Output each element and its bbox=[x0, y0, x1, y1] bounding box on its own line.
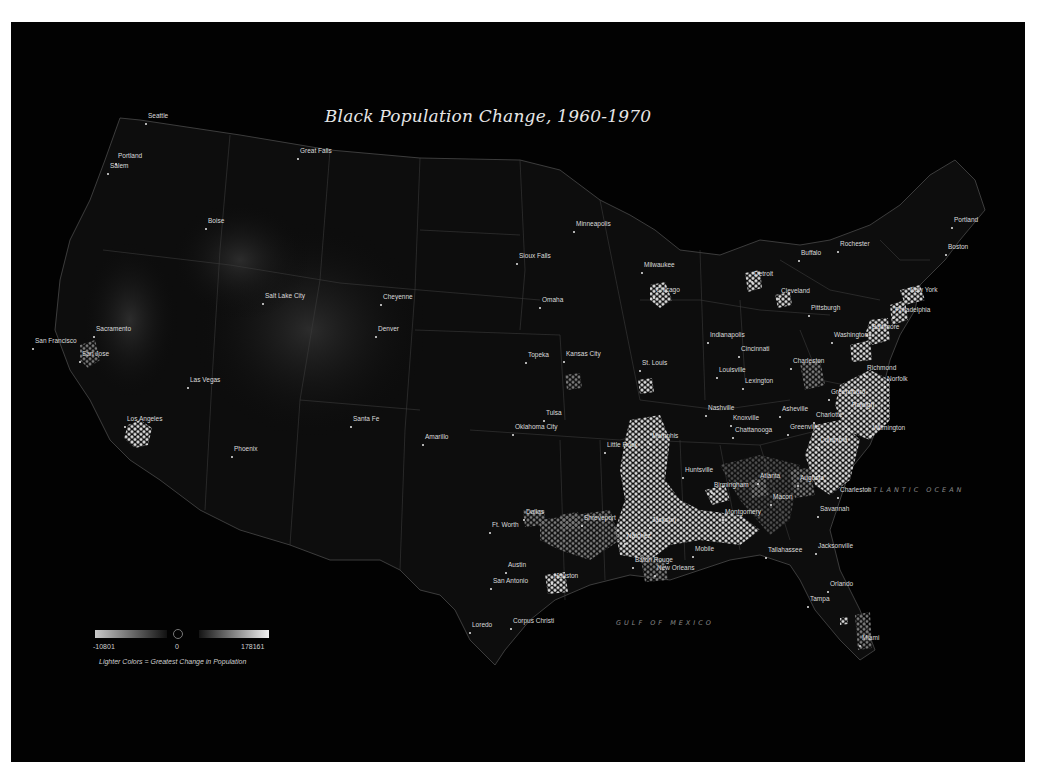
city-marker bbox=[32, 348, 34, 350]
city-label: Sioux Falls bbox=[519, 253, 551, 260]
city-label: Rochester bbox=[840, 241, 870, 248]
city-label: Seattle bbox=[148, 113, 168, 120]
city-label: Memphis bbox=[652, 433, 678, 440]
city-marker bbox=[779, 416, 781, 418]
city-label: Orlando bbox=[830, 581, 853, 588]
city-label: Philadelphia bbox=[895, 307, 930, 314]
city-marker bbox=[469, 632, 471, 634]
city-marker bbox=[654, 575, 656, 577]
city-marker bbox=[624, 543, 626, 545]
water-label: GULF OF MEXICO bbox=[616, 619, 714, 627]
city-marker bbox=[205, 228, 207, 230]
city-marker bbox=[543, 420, 545, 422]
city-marker bbox=[516, 263, 518, 265]
city-label: Louisville bbox=[719, 367, 746, 374]
city-label: Boise bbox=[208, 218, 224, 225]
city-marker bbox=[641, 272, 643, 274]
city-marker bbox=[231, 456, 233, 458]
city-label: Milwaukee bbox=[644, 262, 675, 269]
city-label: Asheville bbox=[782, 406, 808, 413]
city-label: Greenville bbox=[790, 424, 819, 431]
city-label: Natchez bbox=[627, 533, 651, 540]
city-marker bbox=[573, 231, 575, 233]
legend-min-label: -10801 bbox=[93, 643, 115, 650]
city-marker bbox=[859, 645, 861, 647]
city-label: Columbia bbox=[820, 437, 847, 444]
city-marker bbox=[849, 412, 851, 414]
city-marker bbox=[907, 297, 909, 299]
city-label: Knoxville bbox=[733, 415, 759, 422]
city-label: Indianapolis bbox=[710, 332, 745, 339]
city-label: Mobile bbox=[695, 546, 714, 553]
city-marker bbox=[187, 387, 189, 389]
legend-zero-label: 0 bbox=[175, 643, 179, 650]
city-marker bbox=[797, 485, 799, 487]
city-marker bbox=[604, 452, 606, 454]
city-marker bbox=[808, 315, 810, 317]
city-label: Tallahassee bbox=[768, 547, 802, 554]
city-marker bbox=[778, 298, 780, 300]
city-label: Miami bbox=[862, 635, 879, 642]
city-label: Santa Fe bbox=[353, 416, 379, 423]
city-label: Salem bbox=[110, 163, 128, 170]
city-marker bbox=[581, 525, 583, 527]
city-marker bbox=[884, 386, 886, 388]
city-label: Augusta bbox=[800, 475, 824, 482]
city-label: Cheyenne bbox=[383, 294, 413, 301]
city-marker bbox=[692, 556, 694, 558]
city-marker bbox=[145, 123, 147, 125]
city-label: St. Louis bbox=[642, 360, 667, 367]
city-marker bbox=[297, 158, 299, 160]
city-marker bbox=[107, 173, 109, 175]
city-label: Kansas City bbox=[566, 351, 601, 358]
legend-gradient-negative bbox=[95, 630, 167, 638]
city-label: Oklahoma City bbox=[515, 424, 558, 431]
city-label: Minneapolis bbox=[576, 221, 611, 228]
city-label: Nashville bbox=[708, 405, 734, 412]
city-marker bbox=[815, 553, 817, 555]
city-marker bbox=[262, 303, 264, 305]
city-marker bbox=[870, 435, 872, 437]
city-marker bbox=[505, 572, 507, 574]
legend-zero-marker bbox=[173, 629, 183, 639]
city-marker bbox=[817, 447, 819, 449]
city-label: Chattanooga bbox=[735, 427, 772, 434]
city-label: New Orleans bbox=[657, 565, 695, 572]
city-label: Atlanta bbox=[760, 473, 780, 480]
city-marker bbox=[751, 281, 753, 283]
city-label: Buffalo bbox=[801, 250, 821, 257]
city-label: Richmond bbox=[867, 365, 896, 372]
city-marker bbox=[892, 317, 894, 319]
city-label: Portland bbox=[118, 153, 142, 160]
city-label: Pittsburgh bbox=[811, 305, 840, 312]
city-marker bbox=[864, 375, 866, 377]
city-marker bbox=[837, 251, 839, 253]
city-label: Tulsa bbox=[546, 410, 562, 417]
city-marker bbox=[831, 342, 833, 344]
city-marker bbox=[790, 368, 792, 370]
city-marker bbox=[682, 477, 684, 479]
city-label: Topeka bbox=[528, 352, 549, 359]
city-label: Loredo bbox=[472, 622, 492, 629]
city-marker bbox=[350, 426, 352, 428]
city-label: Baltimore bbox=[872, 324, 899, 331]
city-label: Salt Lake City bbox=[265, 293, 305, 300]
city-marker bbox=[828, 399, 830, 401]
city-marker bbox=[951, 227, 953, 229]
city-label: Omaha bbox=[542, 297, 563, 304]
city-label: Greensboro bbox=[831, 389, 865, 396]
city-label: Jacksonville bbox=[818, 543, 853, 550]
city-label: Savannah bbox=[820, 506, 849, 513]
city-marker bbox=[765, 557, 767, 559]
city-marker bbox=[707, 342, 709, 344]
city-marker bbox=[716, 377, 718, 379]
water-label: ATLANTIC OCEAN bbox=[866, 486, 964, 494]
city-marker bbox=[817, 516, 819, 518]
city-label: Amarillo bbox=[425, 434, 448, 441]
city-label: Shreveport bbox=[584, 515, 616, 522]
city-marker bbox=[512, 434, 514, 436]
city-marker bbox=[375, 336, 377, 338]
city-marker bbox=[649, 443, 651, 445]
city-label: Phoenix bbox=[234, 446, 258, 453]
city-label: Corpus Christi bbox=[513, 618, 554, 625]
